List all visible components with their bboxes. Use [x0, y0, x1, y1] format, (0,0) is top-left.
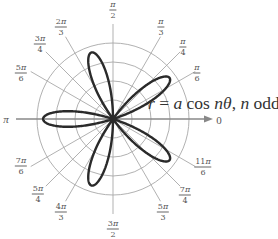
angle-label-numerator: 2π [55, 18, 67, 28]
angle-label-numerator: 5π [32, 185, 44, 195]
equation-label: r = a cos nθ, n odd [148, 93, 278, 114]
angle-label-2pi_3: 2π3 [55, 18, 67, 37]
angle-label-numerator: π [157, 18, 164, 28]
angle-label-pi_2: π2 [109, 1, 116, 20]
angle-label-3pi_4: 3π4 [34, 35, 46, 54]
angle-label-denominator: 6 [194, 74, 199, 83]
grid-radial-line [113, 119, 161, 201]
angle-label-denominator: 4 [37, 45, 42, 54]
angle-label-numerator: 7π [15, 157, 27, 167]
angle-label-pi_4: π4 [179, 38, 186, 57]
angle-label-numerator: 4π [55, 203, 67, 213]
angle-label-denominator: 4 [182, 196, 187, 205]
equation-cos: cos [182, 93, 214, 113]
angle-label-numerator: 3π [34, 35, 46, 45]
equation-coef-a: a [173, 93, 182, 113]
angle-label-numerator: π [109, 1, 116, 11]
angle-label-denominator: 3 [158, 28, 163, 37]
equation-theta: θ [223, 93, 232, 113]
angle-label-denominator: 3 [58, 213, 63, 222]
equation-equals: = [155, 93, 174, 113]
axis-arrow-icon [204, 116, 213, 123]
angle-label-numerator: 3π [107, 220, 119, 230]
angle-label-7pi_4: 7π4 [179, 186, 191, 205]
zero-label: 0 [216, 114, 222, 126]
equation-var-r: r [148, 93, 155, 113]
angle-label-3pi_2: 3π2 [107, 220, 119, 239]
angle-label-numerator: 5π [15, 64, 27, 74]
angle-label-pi_6: π6 [193, 64, 200, 83]
angle-label-denominator: 6 [200, 168, 205, 177]
angle-label-denominator: 6 [18, 74, 23, 83]
angle-label-11pi_6: 11π6 [194, 158, 211, 177]
angle-label-numerator: π [179, 38, 186, 48]
grid-radial-line [113, 119, 195, 167]
angle-label-denominator: 3 [58, 28, 63, 37]
angle-label-denominator: 2 [110, 11, 115, 20]
angle-label-denominator: 6 [18, 167, 23, 176]
angle-label-pi_3: π3 [157, 18, 164, 37]
angle-label-denominator: 2 [110, 230, 115, 239]
angle-label-numerator: 5π [157, 203, 169, 213]
angle-label-4pi_3: 4π3 [55, 203, 67, 222]
angle-label-5pi_4: 5π4 [32, 185, 44, 204]
angle-label-5pi_6: 5π6 [15, 64, 27, 83]
angle-label-7pi_6: 7π6 [15, 157, 27, 176]
pi-label: π [3, 113, 9, 125]
angle-label-numerator: 7π [179, 186, 191, 196]
equation-odd: odd [249, 93, 278, 113]
angle-label-numerator: π [193, 64, 200, 74]
angle-label-denominator: 4 [180, 48, 185, 57]
equation-n: n [214, 93, 223, 113]
angle-label-numerator: 11π [194, 158, 211, 168]
angle-label-denominator: 3 [160, 213, 165, 222]
equation-cond-n: n [240, 93, 249, 113]
angle-label-5pi_3: 5π3 [157, 203, 169, 222]
angle-label-denominator: 4 [35, 195, 40, 204]
